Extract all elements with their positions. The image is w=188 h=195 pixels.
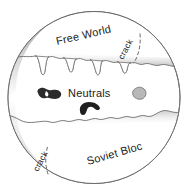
label-neutrals: Neutrals: [68, 87, 111, 99]
blob-right: [133, 87, 146, 99]
cracked-world-diagram: Free World Neutrals Soviet Bloc crack cr…: [0, 0, 188, 195]
diagram-canvas: Free World Neutrals Soviet Bloc crack cr…: [0, 0, 188, 195]
